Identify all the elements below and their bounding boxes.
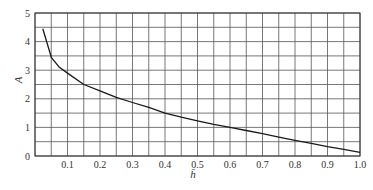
x-tick-label: 0.4 bbox=[159, 159, 172, 170]
x-axis-label: h̄ bbox=[190, 168, 196, 180]
y-tick-label: 0 bbox=[25, 151, 30, 162]
x-tick-label: 0.7 bbox=[256, 159, 269, 170]
y-tick-label: 5 bbox=[25, 8, 30, 19]
y-tick-label: 3 bbox=[25, 65, 30, 76]
x-tick-label: 0.8 bbox=[289, 159, 302, 170]
x-tick-label: 1.0 bbox=[354, 159, 367, 170]
y-tick-label: 2 bbox=[25, 93, 30, 104]
x-tick-label: 0.9 bbox=[321, 159, 334, 170]
y-tick-labels: 012345 bbox=[25, 8, 30, 162]
y-tick-label: 1 bbox=[25, 122, 30, 133]
x-tick-label: 0.3 bbox=[126, 159, 139, 170]
x-tick-label: 0.1 bbox=[61, 159, 74, 170]
y-tick-label: 4 bbox=[25, 36, 30, 47]
y-axis-label: A bbox=[12, 76, 24, 84]
chart: 0.10.20.30.40.50.60.70.80.91.0 012345 h̄… bbox=[0, 0, 373, 190]
x-tick-labels: 0.10.20.30.40.50.60.70.80.91.0 bbox=[61, 159, 366, 170]
data-curve bbox=[43, 29, 360, 153]
x-tick-label: 0.6 bbox=[224, 159, 237, 170]
x-tick-label: 0.2 bbox=[94, 159, 107, 170]
